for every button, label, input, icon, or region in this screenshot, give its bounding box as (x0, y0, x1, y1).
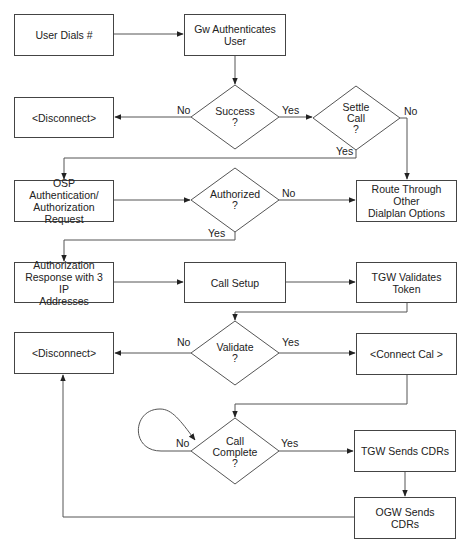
label-settle-yes: Yes (336, 146, 353, 157)
node-ogw-sends-cdrs: OGW Sends CDRs (354, 497, 456, 539)
decision-call-complete-label: Call Complete ? (200, 434, 270, 470)
label-success-yes: Yes (282, 105, 299, 116)
label-settle-no: No (404, 106, 417, 117)
node-disconnect-1: <Disconnect> (14, 97, 114, 138)
decision-validate-label: Validate ? (200, 338, 270, 368)
label-call-complete-no: No (176, 438, 189, 449)
node-osp-request: OSP Authentication/ Authorization Reques… (14, 180, 114, 222)
decision-authorized-label: Authorized ? (200, 185, 270, 215)
node-user-dials: User Dials # (14, 14, 114, 56)
label-validate-yes: Yes (282, 337, 299, 348)
node-connect-call: <Connect Cal > (356, 333, 457, 375)
edge-connect-to-call-complete (235, 374, 407, 417)
edge-settle-no (400, 118, 407, 179)
node-auth-response: Authorization Response with 3 IP Address… (14, 262, 114, 303)
node-route-other: Route Through Other Dialplan Options (356, 180, 457, 222)
edge-tgw-validates-to-validate (235, 302, 407, 320)
decision-settle-call-label: Settle Call ? (322, 100, 390, 136)
label-authorized-no: No (282, 188, 295, 199)
label-call-complete-yes: Yes (281, 438, 298, 449)
node-tgw-validates: TGW Validates Token (356, 262, 457, 303)
node-gw-authenticates-user: Gw Authenticates User (184, 14, 286, 56)
decision-success-label: Success ? (200, 102, 270, 132)
node-disconnect-2: <Disconnect> (14, 332, 114, 374)
label-success-no: No (177, 105, 190, 116)
node-tgw-sends-cdrs: TGW Sends CDRs (354, 430, 456, 472)
node-call-setup: Call Setup (184, 262, 286, 303)
label-authorized-yes: Yes (208, 228, 225, 239)
edge-settle-yes (64, 150, 356, 179)
label-validate-no: No (177, 337, 190, 348)
